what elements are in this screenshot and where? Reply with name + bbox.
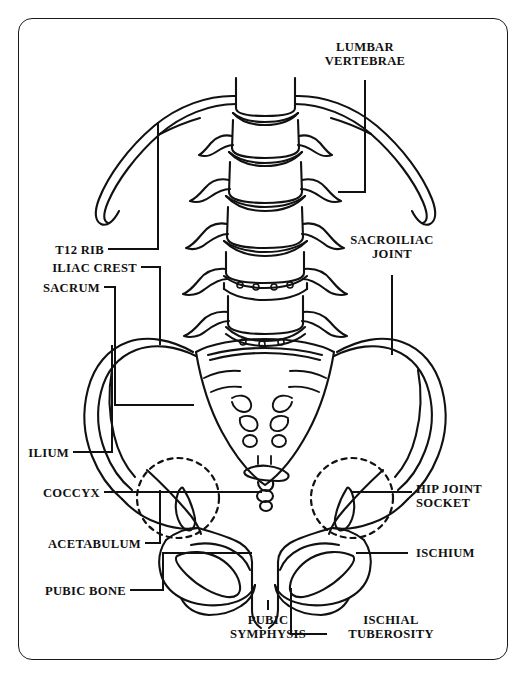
label-pubic-symphysis: PUBIC SYMPHYSIS bbox=[221, 613, 315, 641]
ischium-left-shape bbox=[181, 585, 255, 615]
left-acetabulum-region bbox=[147, 470, 201, 534]
label-ischium: ISCHIUM bbox=[416, 546, 516, 560]
right-acetabulum-region bbox=[329, 470, 383, 534]
vertebra-l2 bbox=[199, 120, 332, 166]
label-acetabulum: ACETABULUM bbox=[0, 537, 141, 551]
t12-rib-left-shape bbox=[96, 96, 236, 225]
label-hip-joint-socket: HIP JOINT SOCKET bbox=[416, 482, 520, 510]
sacrum-shape bbox=[196, 339, 334, 485]
sacral-hiatus bbox=[258, 456, 271, 464]
figure-canvas: LUMBAR VERTEBRAE SACROILIAC JOINT T12 RI… bbox=[0, 0, 524, 675]
vertebra-l5 bbox=[183, 252, 347, 300]
pelvis-illustration bbox=[0, 0, 524, 675]
ilium-left-shape bbox=[85, 339, 196, 523]
vertebra-l3 bbox=[190, 162, 341, 211]
label-sacroiliac-joint: SACROILIAC JOINT bbox=[335, 233, 449, 261]
label-sacrum: SACRUM bbox=[0, 281, 100, 295]
label-ischial-tuberosity: ISCHIAL TUBEROSITY bbox=[331, 613, 451, 641]
sacral-foramina bbox=[232, 396, 292, 447]
label-iliac-crest: ILIAC CREST bbox=[0, 261, 137, 275]
vertebra-l4 bbox=[186, 207, 344, 256]
ischium-right-shape bbox=[275, 585, 349, 615]
leader-acetabulum bbox=[145, 490, 160, 543]
label-pubic-bone: PUBIC BONE bbox=[0, 584, 126, 598]
leader-lumbar-vertebrae bbox=[338, 80, 365, 192]
vertebra-l1 bbox=[233, 78, 298, 125]
leader-ilium bbox=[73, 345, 112, 452]
label-coccyx: COCCYX bbox=[0, 486, 100, 500]
obturator-foramen-right bbox=[290, 552, 354, 597]
pubis-right-shape bbox=[275, 528, 371, 605]
sacral-ala-lines bbox=[204, 371, 326, 392]
hip-socket-dashed-circle-left bbox=[137, 458, 219, 538]
pubis-left-shape bbox=[159, 528, 255, 605]
label-lumbar-vertebrae: LUMBAR VERTEBRAE bbox=[306, 40, 424, 68]
obturator-foramen-left bbox=[176, 552, 240, 597]
hip-socket-dashed-circle-right bbox=[311, 458, 393, 538]
label-t12-rib: T12 RIB bbox=[0, 243, 104, 257]
label-ilium: ILIUM bbox=[0, 446, 69, 460]
leader-iliac-crest bbox=[141, 267, 160, 345]
